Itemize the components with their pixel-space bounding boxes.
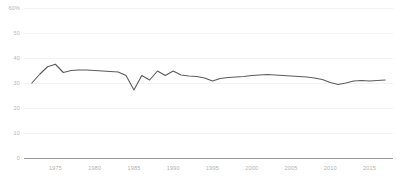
y-axis-tick-label: 40 bbox=[13, 55, 20, 61]
y-axis-tick-label: 50 bbox=[13, 30, 20, 36]
y-axis-tick-label: 20 bbox=[13, 105, 20, 111]
y-axis-tick-label: 30 bbox=[13, 80, 20, 86]
x-axis-tick-label: 2010 bbox=[324, 165, 337, 171]
y-axis-tick-label: 10 bbox=[13, 130, 20, 136]
y-axis-tick-label: 0 bbox=[17, 155, 20, 161]
chart-plot-area: 0102030405060% 1975198019851990199520002… bbox=[0, 0, 401, 183]
x-axis-tick-label: 1990 bbox=[167, 165, 180, 171]
x-axis-tick-label: 1975 bbox=[49, 165, 62, 171]
y-axis-tick-label: 60% bbox=[8, 5, 20, 11]
x-axis-tick-label: 1995 bbox=[206, 165, 219, 171]
x-axis-tick-label: 2015 bbox=[363, 165, 376, 171]
x-axis-tick-label: 2005 bbox=[284, 165, 297, 171]
x-axis-tick-labels: 197519801985199019952000200520102015 bbox=[49, 165, 376, 171]
data-series-line bbox=[32, 64, 385, 90]
x-axis-tick-label: 1980 bbox=[88, 165, 101, 171]
x-axis-tick-label: 1985 bbox=[127, 165, 140, 171]
y-axis-tick-labels: 0102030405060% bbox=[8, 5, 20, 161]
line-chart: 0102030405060% 1975198019851990199520002… bbox=[0, 0, 401, 183]
x-axis-tick-label: 2000 bbox=[245, 165, 258, 171]
